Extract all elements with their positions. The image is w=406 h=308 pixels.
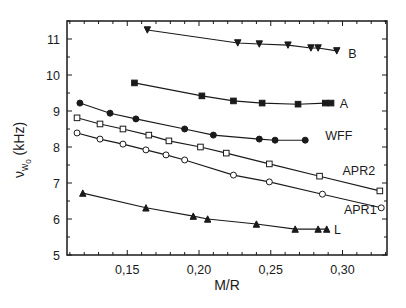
data-point <box>166 138 172 144</box>
data-point <box>74 115 80 121</box>
series-l: L <box>80 190 341 237</box>
y-tick-label: 6 <box>53 213 60 227</box>
x-axis: 0,150,200,250,30 <box>70 21 386 277</box>
series-label: B <box>348 47 356 61</box>
data-point <box>182 126 188 132</box>
data-point <box>146 132 152 138</box>
series-label: APR2 <box>343 164 376 178</box>
series-label: APR1 <box>344 203 377 217</box>
x-tick-label: 0,25 <box>259 263 283 277</box>
y-tick-label: 10 <box>46 69 60 83</box>
data-point <box>259 100 265 106</box>
y-label-symbol: ν <box>11 171 27 178</box>
y-tick-label: 7 <box>53 177 60 191</box>
data-point <box>210 132 216 138</box>
data-point <box>223 150 229 156</box>
svg-text:νw0(kHz): νw0(kHz) <box>11 122 33 178</box>
data-point <box>377 188 383 194</box>
data-point <box>97 136 103 142</box>
x-tick-label: 0,30 <box>330 263 354 277</box>
data-point <box>199 93 205 99</box>
series-layer: BAWFFAPR2APR1L <box>74 27 384 237</box>
data-point <box>230 172 236 178</box>
data-point <box>107 110 113 116</box>
x-tick-label: 0,20 <box>187 263 211 277</box>
data-point <box>266 179 272 185</box>
series-line <box>80 103 305 140</box>
data-point <box>317 173 323 179</box>
data-point <box>198 144 204 150</box>
y-tick-label: 8 <box>53 141 60 155</box>
data-point <box>132 80 138 86</box>
y-tick-label: 9 <box>53 105 60 119</box>
data-point <box>322 100 328 106</box>
series-line <box>83 193 327 229</box>
data-point <box>272 137 278 143</box>
series-a: A <box>132 80 349 111</box>
data-point <box>295 101 301 107</box>
data-point <box>231 98 237 104</box>
data-point <box>163 152 169 158</box>
series-b: B <box>144 27 356 61</box>
y-axis-label: νw0(kHz) <box>11 122 33 178</box>
series-wff: WFF <box>77 100 353 143</box>
y-label-unit: (kHz) <box>11 122 27 155</box>
data-point <box>256 136 262 142</box>
data-point <box>319 191 325 197</box>
data-point <box>267 161 273 167</box>
data-point <box>74 130 80 136</box>
series-apr2: APR2 <box>74 115 382 194</box>
data-point <box>77 100 83 106</box>
data-point <box>97 121 103 127</box>
chart: 0,150,200,250,30 567891011 BAWFFAPR2APR1… <box>0 0 406 308</box>
series-label: WFF <box>325 129 352 143</box>
data-point <box>378 205 384 211</box>
data-point <box>328 100 334 106</box>
data-point <box>133 116 139 122</box>
y-tick-label: 5 <box>53 249 60 263</box>
series-line <box>147 30 336 51</box>
data-point <box>143 147 149 153</box>
series-label: A <box>340 97 349 111</box>
data-point <box>120 126 126 132</box>
data-point <box>302 137 308 143</box>
data-point <box>120 141 126 147</box>
x-tick-label: 0,15 <box>115 263 139 277</box>
y-tick-label: 11 <box>47 33 60 47</box>
x-axis-label: M/R <box>214 277 240 293</box>
data-point <box>182 157 188 163</box>
series-label: L <box>334 223 341 237</box>
y-label-subsub: 0 <box>24 159 33 164</box>
